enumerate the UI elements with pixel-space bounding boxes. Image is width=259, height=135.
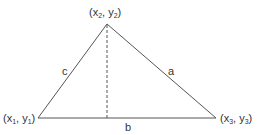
vertex-top-x-sub: 2 [98, 12, 102, 19]
side-label-c: c [62, 65, 68, 77]
vertex-label-top: (x2, y2) [89, 6, 121, 22]
vertex-bl-x-sub: 1 [12, 118, 16, 125]
vertex-bl-y-sub: 1 [28, 118, 32, 125]
vertex-label-bottom-right: (x3, y3) [220, 112, 252, 128]
vertex-top-y-sub: 2 [114, 12, 118, 19]
vertex-br-y-sub: 3 [245, 118, 249, 125]
triangle-diagram: (x2, y2) (x1, y1) (x3, y3) c a b [0, 0, 259, 135]
vertex-label-bottom-left: (x1, y1) [3, 112, 35, 128]
vertex-br-x-sub: 3 [229, 118, 233, 125]
side-label-b: b [125, 121, 131, 133]
side-label-a: a [168, 65, 174, 77]
